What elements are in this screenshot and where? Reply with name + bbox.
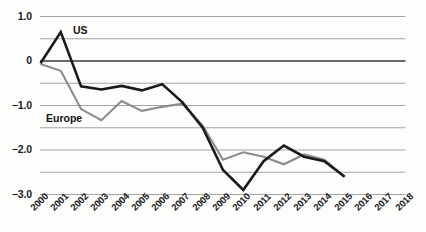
- series-label-europe: Europe: [46, 112, 82, 124]
- y-tick-label: −1.0: [0, 99, 32, 111]
- series-line-europe: [41, 64, 345, 177]
- y-tick-label: −3.0: [0, 188, 32, 200]
- series-label-us: US: [73, 24, 88, 36]
- line-chart: 1.00−1.0−2.0−3.0 20002001200220032004200…: [0, 0, 426, 232]
- y-tick-label: −2.0: [0, 143, 32, 155]
- y-tick-label: 0: [0, 54, 32, 66]
- data-series: [41, 32, 345, 190]
- y-tick-label: 1.0: [0, 10, 32, 22]
